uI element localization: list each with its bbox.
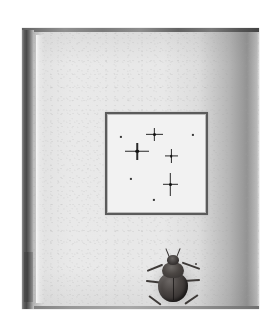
scanned-page-scene [0,0,279,328]
star-mid-left-icon [125,143,149,160]
star-plate-field [108,115,205,212]
page-bottom-edge [22,306,259,309]
book-page [22,28,259,309]
star-top-center-icon [146,128,163,141]
framed-star-plate [105,112,208,215]
antenna-left [165,248,170,257]
page-paper-surface [33,32,259,306]
star-lower-right-icon [163,173,178,196]
beetle-illustration [145,248,201,310]
page-fold-highlight [36,35,44,303]
dot-upper-left [120,136,122,138]
dot-bottom [153,199,155,201]
page-spine-nick [24,252,33,302]
beetle-elytra-seam [173,275,174,300]
leg-tip-front-right [195,263,197,265]
dot-upper-right [192,134,194,136]
dot-lower-left [130,178,132,180]
star-mid-right-icon [165,149,178,163]
antenna-right [176,248,181,257]
